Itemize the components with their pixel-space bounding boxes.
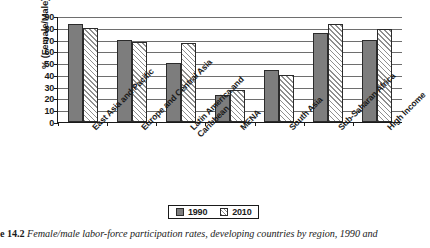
y-tick-label-60: 60 [44, 48, 54, 57]
bar-group [58, 17, 107, 122]
bar [279, 75, 294, 122]
x-axis-label: East Asia and Pacific [90, 125, 97, 132]
bar [264, 70, 279, 122]
legend-label-1990: 1990 [188, 207, 207, 217]
y-tick-label-70: 70 [44, 36, 54, 45]
bar-group [255, 17, 304, 122]
legend-item-2010[interactable]: 2010 [220, 207, 251, 217]
y-tick-label-40: 40 [44, 71, 54, 80]
y-axis-tick-labels: 0102030405060708090 [16, 17, 54, 123]
y-tick-label-80: 80 [44, 24, 54, 33]
figure-number: e 14.2 [0, 228, 25, 239]
x-axis-label: High Income [385, 125, 392, 132]
bar [68, 24, 83, 122]
bar [230, 90, 245, 122]
bar [83, 28, 98, 122]
figure-caption-text: Female/male labor-force participation ra… [27, 228, 377, 239]
y-tick-label-90: 90 [44, 13, 54, 22]
y-tick-label-20: 20 [44, 95, 54, 104]
legend-swatch-1990 [176, 208, 184, 216]
figure-caption: e 14.2 Female/male labor-force participa… [0, 228, 430, 239]
x-axis-label: Sub-Saharan Africa [336, 125, 343, 132]
x-axis-label: Latin America andCaribbean [188, 125, 202, 139]
chart-legend: 1990 2010 [168, 205, 259, 219]
legend-item-1990[interactable]: 1990 [176, 207, 207, 217]
x-axis-category-labels: East Asia and PacificEurope and Central … [57, 125, 402, 201]
x-axis-label: South Asia [287, 125, 294, 132]
y-tick-label-30: 30 [44, 83, 54, 92]
y-tick-label-50: 50 [44, 60, 54, 69]
legend-swatch-2010 [220, 208, 228, 216]
x-axis-label: Europe and Central Asia [139, 125, 146, 132]
x-axis-label: MENA [238, 125, 245, 132]
bar [328, 24, 343, 122]
legend-label-2010: 2010 [232, 207, 251, 217]
y-tick-label-10: 10 [44, 107, 54, 116]
